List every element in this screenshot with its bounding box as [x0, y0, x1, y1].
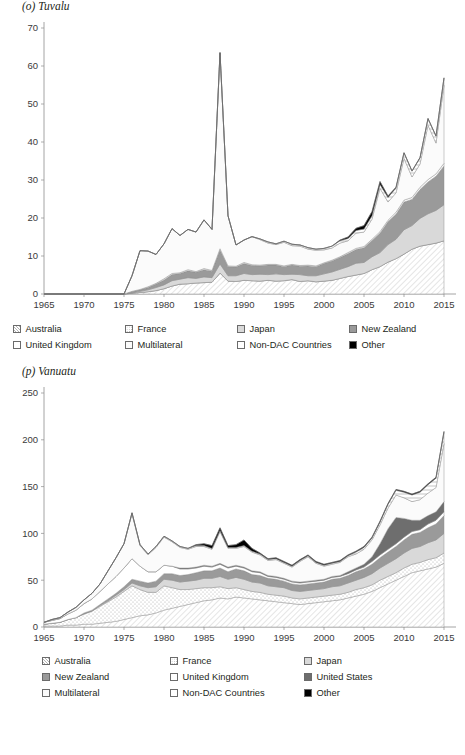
legend-row: AustraliaFranceJapanNew Zealand: [13, 321, 453, 337]
y-tick-label: 100: [22, 528, 38, 539]
x-tick-label: 1985: [193, 299, 214, 310]
legend-swatch-icon: [42, 689, 50, 697]
y-tick-label: 250: [22, 387, 38, 398]
x-tick-label: 2005: [353, 632, 374, 643]
x-tick-label: 1995: [273, 632, 294, 643]
y-tick-label: 150: [22, 481, 38, 492]
legend-swatch-icon: [237, 325, 245, 333]
legend-swatch-icon: [170, 673, 178, 681]
legend-swatch-icon: [125, 325, 133, 333]
legend-label: Non-DAC Countries: [183, 687, 265, 699]
x-tick-label: 1970: [73, 299, 94, 310]
legend-label: Other: [362, 339, 385, 351]
stacked-areas: [44, 431, 444, 627]
x-tick-label: 1990: [233, 632, 254, 643]
legend-item-united-states[interactable]: United States: [304, 669, 424, 685]
x-tick-label: 2000: [313, 299, 334, 310]
legend-row: New ZealandUnited KingdomUnited States: [42, 669, 424, 685]
legend-label: France: [183, 655, 212, 667]
legend-swatch-icon: [170, 689, 178, 697]
x-tick-label: 2005: [353, 299, 374, 310]
x-tick-label: 1965: [33, 632, 54, 643]
chart-svg-vanuatu: 0501001502002501965197019751980198519901…: [0, 377, 465, 649]
legend-row: AustraliaFranceJapan: [42, 653, 424, 669]
x-tick-label: 1965: [33, 299, 54, 310]
legend-item-other[interactable]: Other: [304, 685, 424, 701]
y-tick-label: 200: [22, 434, 38, 445]
legend-swatch-icon: [304, 657, 312, 665]
legend-label: United Kingdom: [26, 339, 92, 351]
legend-label: Multilateral: [55, 687, 100, 699]
legend-item-new-zealand[interactable]: New Zealand: [42, 669, 170, 685]
legend-vanuatu: AustraliaFranceJapanNew ZealandUnited Ki…: [0, 653, 465, 701]
legend-item-australia[interactable]: Australia: [13, 321, 125, 337]
legend-row: United KingdomMultilateralNon-DAC Countr…: [13, 337, 453, 353]
panel-tuvalu: (o) Tuvalu 01020304050607019651970197519…: [0, 0, 465, 353]
legend-item-non-dac-countries[interactable]: Non-DAC Countries: [237, 337, 349, 353]
legend-label: Japan: [250, 323, 275, 335]
y-tick-label: 20: [27, 212, 38, 223]
legend-label: Japan: [317, 655, 342, 667]
legend-item-japan[interactable]: Japan: [304, 653, 424, 669]
panel-title-vanuatu: (p) Vanuatu: [0, 365, 465, 377]
legend-swatch-icon: [13, 341, 21, 349]
legend-label: United Kingdom: [183, 671, 249, 683]
chart-tuvalu: 0102030405060701965197019751980198519901…: [0, 12, 465, 317]
legend-swatch-icon: [125, 341, 133, 349]
legend-label: France: [138, 323, 167, 335]
y-tick-label: 70: [27, 22, 38, 33]
x-tick-label: 1990: [233, 299, 254, 310]
legend-item-non-dac-countries[interactable]: Non-DAC Countries: [170, 685, 304, 701]
figure-page: (o) Tuvalu 01020304050607019651970197519…: [0, 0, 465, 755]
x-tick-label: 1975: [113, 299, 134, 310]
legend-table-tuvalu: AustraliaFranceJapanNew ZealandUnited Ki…: [13, 321, 453, 353]
legend-item-united-kingdom[interactable]: United Kingdom: [170, 669, 304, 685]
legend-item-japan[interactable]: Japan: [237, 321, 349, 337]
y-tick-label: 0: [33, 288, 38, 299]
legend-swatch-icon: [237, 341, 245, 349]
legend-item-france[interactable]: France: [170, 653, 304, 669]
legend-item-other[interactable]: Other: [349, 337, 453, 353]
x-tick-label: 2015: [433, 632, 454, 643]
legend-tuvalu: AustraliaFranceJapanNew ZealandUnited Ki…: [0, 321, 465, 353]
legend-item-multilateral[interactable]: Multilateral: [42, 685, 170, 701]
legend-item-france[interactable]: France: [125, 321, 237, 337]
legend-table-vanuatu: AustraliaFranceJapanNew ZealandUnited Ki…: [42, 653, 424, 701]
legend-item-australia[interactable]: Australia: [42, 653, 170, 669]
legend-label: New Zealand: [362, 323, 417, 335]
panel-vanuatu: (p) Vanuatu 0501001502002501965197019751…: [0, 365, 465, 701]
legend-label: Non-DAC Countries: [250, 339, 332, 351]
legend-label: Australia: [55, 655, 91, 667]
y-tick-label: 60: [27, 60, 38, 71]
legend-swatch-icon: [13, 325, 21, 333]
y-tick-label: 50: [27, 98, 38, 109]
legend-swatch-icon: [304, 673, 312, 681]
x-tick-label: 2000: [313, 632, 334, 643]
stacked-areas: [44, 53, 444, 294]
legend-item-new-zealand[interactable]: New Zealand: [349, 321, 453, 337]
panel-title-tuvalu: (o) Tuvalu: [0, 0, 465, 12]
legend-label: Australia: [26, 323, 62, 335]
x-tick-label: 1975: [113, 632, 134, 643]
legend-label: Multilateral: [138, 339, 183, 351]
legend-swatch-icon: [42, 657, 50, 665]
y-tick-label: 50: [27, 575, 38, 586]
x-tick-label: 2015: [433, 299, 454, 310]
x-tick-label: 2010: [393, 299, 414, 310]
legend-label: New Zealand: [55, 671, 110, 683]
legend-swatch-icon: [349, 325, 357, 333]
chart-svg-tuvalu: 0102030405060701965197019751980198519901…: [0, 12, 465, 317]
x-tick-label: 1985: [193, 632, 214, 643]
legend-item-multilateral[interactable]: Multilateral: [125, 337, 237, 353]
x-tick-label: 2010: [393, 632, 414, 643]
legend-row: MultilateralNon-DAC CountriesOther: [42, 685, 424, 701]
chart-vanuatu: 0501001502002501965197019751980198519901…: [0, 377, 465, 649]
x-tick-label: 1980: [153, 299, 174, 310]
legend-swatch-icon: [349, 341, 357, 349]
x-tick-label: 1995: [273, 299, 294, 310]
legend-item-united-kingdom[interactable]: United Kingdom: [13, 337, 125, 353]
legend-swatch-icon: [42, 673, 50, 681]
legend-label: Other: [317, 687, 340, 699]
x-tick-label: 1980: [153, 632, 174, 643]
y-tick-label: 10: [27, 250, 38, 261]
